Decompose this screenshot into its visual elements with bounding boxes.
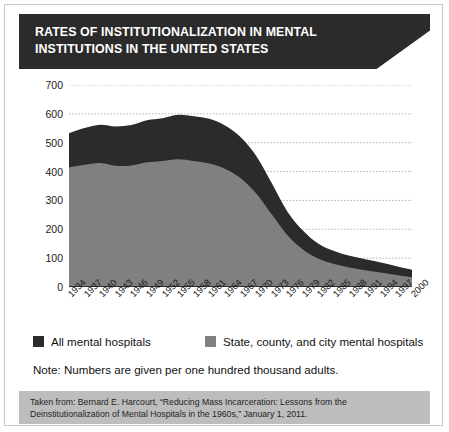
page-title: RATES OF INSTITUTIONALIZATION IN MENTAL … — [35, 24, 365, 57]
legend-swatch — [205, 336, 216, 347]
y-axis-tick-label: 500 — [23, 137, 63, 149]
y-axis-tick-label: 100 — [23, 252, 63, 264]
header-banner: RATES OF INSTITUTIONALIZATION IN MENTAL … — [19, 14, 430, 69]
y-axis-tick-label: 400 — [23, 166, 63, 178]
plot-area — [69, 85, 412, 287]
y-axis-tick-label: 0 — [23, 281, 63, 293]
legend-label: All mental hospitals — [51, 335, 151, 348]
legend-swatch — [33, 336, 44, 347]
legend-item: State, county, and city mental hospitals — [205, 335, 423, 348]
y-axis-tick-label: 300 — [23, 194, 63, 206]
note-text: Note: Numbers are given per one hundred … — [33, 363, 339, 376]
x-axis-tick-label: 2000 — [409, 277, 431, 299]
y-axis-tick-label: 700 — [23, 79, 63, 91]
y-axis-tick-label: 600 — [23, 108, 63, 120]
legend-item: All mental hospitals — [33, 335, 151, 348]
chart: 0100200300400500600700 19341937194019431… — [19, 77, 430, 323]
chart-legend: All mental hospitalsState, county, and c… — [33, 335, 433, 351]
area-chart-svg — [69, 85, 412, 287]
source-footer: Taken from: Bernard E. Harcourt, “Reduci… — [19, 391, 430, 424]
source-citation: Taken from: Bernard E. Harcourt, “Reduci… — [30, 397, 422, 420]
legend-label: State, county, and city mental hospitals — [223, 335, 423, 348]
infographic-card: RATES OF INSTITUTIONALIZATION IN MENTAL … — [4, 4, 443, 426]
y-axis-tick-label: 200 — [23, 223, 63, 235]
